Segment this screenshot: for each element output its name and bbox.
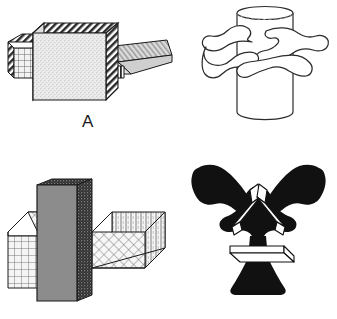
figure-a-label: A <box>58 113 118 130</box>
figure-a-center-block <box>33 23 118 100</box>
figure-b-center-slab <box>37 179 92 301</box>
figure-c-drawing <box>180 0 337 150</box>
figure-b-right-box <box>92 212 165 268</box>
figure-c-organic-form <box>202 26 328 78</box>
figure-c-cell: C <box>180 0 337 150</box>
figure-a-cell: A <box>0 0 180 150</box>
figure-b-drawing <box>0 150 180 319</box>
figure-d-drawing <box>180 150 337 319</box>
figure-panel: A C <box>0 0 337 319</box>
figure-b-cell: B <box>0 150 180 319</box>
figure-d-cell: D <box>180 150 337 319</box>
